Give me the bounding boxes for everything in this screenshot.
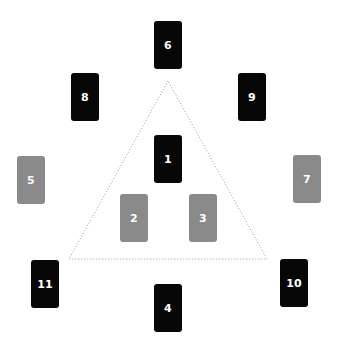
card-9-label: 9 xyxy=(248,92,256,103)
card-11-label: 11 xyxy=(37,279,53,290)
card-5-label: 5 xyxy=(27,175,35,186)
card-8-label: 8 xyxy=(81,92,89,103)
card-1: 1 xyxy=(154,135,182,183)
card-7-label: 7 xyxy=(303,174,311,185)
card-9: 9 xyxy=(238,73,266,121)
card-7: 7 xyxy=(293,155,321,203)
card-11: 11 xyxy=(31,260,59,308)
card-2: 2 xyxy=(120,194,148,242)
card-10: 10 xyxy=(280,259,308,307)
card-2-label: 2 xyxy=(130,213,138,224)
card-10-label: 10 xyxy=(286,278,302,289)
card-6-label: 6 xyxy=(164,40,172,51)
card-4-label: 4 xyxy=(164,303,172,314)
card-4: 4 xyxy=(154,284,182,332)
card-3: 3 xyxy=(189,194,217,242)
card-6: 6 xyxy=(154,21,182,69)
card-3-label: 3 xyxy=(199,213,207,224)
card-8: 8 xyxy=(71,73,99,121)
card-1-label: 1 xyxy=(164,154,172,165)
card-5: 5 xyxy=(17,156,45,204)
card-spread-diagram: 1 2 3 4 5 6 7 8 9 10 11 xyxy=(0,0,337,349)
